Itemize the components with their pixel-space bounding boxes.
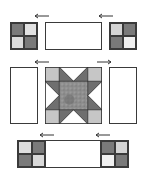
sawtooth-star-block (45, 67, 102, 124)
pressing-arrow-left-icon (33, 13, 49, 19)
plain-rectangle-left (10, 67, 38, 124)
four-patch-bottom-right (100, 141, 128, 167)
plain-rectangle-right (109, 67, 137, 124)
four-patch-top-right (109, 22, 137, 50)
pressing-arrow-right-icon (97, 59, 113, 65)
pressing-arrow-left-icon (38, 132, 54, 138)
plain-rectangle-top (45, 22, 102, 50)
pressing-arrow-left-icon (94, 132, 110, 138)
four-patch-top-left (10, 22, 38, 50)
bottom-row-strip (17, 140, 129, 168)
pressing-arrow-left-icon (97, 13, 113, 19)
pressing-arrow-left-icon (33, 59, 49, 65)
plain-rectangle-bottom (46, 141, 100, 167)
four-patch-bottom-left (18, 141, 46, 167)
